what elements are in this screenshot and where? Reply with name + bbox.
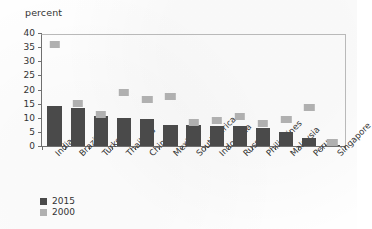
marker-2000 xyxy=(211,117,221,124)
bar-2015 xyxy=(117,118,131,146)
marker-2000 xyxy=(73,100,83,107)
y-tick-label: 10 xyxy=(24,113,35,123)
y-tick-label: 30 xyxy=(24,56,35,66)
legend-label-2000: 2000 xyxy=(52,207,75,218)
legend-item-2000: 2000 xyxy=(40,207,75,218)
chart-legend: 2015 2000 xyxy=(40,196,75,218)
bar-2015 xyxy=(140,119,154,146)
plot-area: 0510152025303540 xyxy=(41,34,346,147)
legend-label-2015: 2015 xyxy=(52,196,75,207)
bar-2015 xyxy=(302,138,316,146)
marker-2000 xyxy=(96,111,106,118)
y-tick-label: 5 xyxy=(29,127,35,137)
y-tick-label: 35 xyxy=(24,42,35,52)
legend-item-2015: 2015 xyxy=(40,196,75,207)
marker-2000 xyxy=(188,119,198,126)
marker-2000 xyxy=(49,41,59,48)
bar-group xyxy=(112,35,135,146)
bar-group xyxy=(43,35,66,146)
bar-2015 xyxy=(163,125,177,146)
bar-2015 xyxy=(210,126,224,146)
bar-2015 xyxy=(233,126,247,146)
bar-2015 xyxy=(71,108,85,146)
bar-2015 xyxy=(186,125,200,146)
bar-2015 xyxy=(256,128,270,146)
bar-group xyxy=(89,35,112,146)
bar-group xyxy=(182,35,205,146)
marker-2000 xyxy=(119,89,129,96)
marker-2000 xyxy=(281,116,291,123)
marker-2000 xyxy=(327,139,337,146)
bar-group xyxy=(321,35,344,146)
legend-swatch-2000-icon xyxy=(40,209,47,216)
bar-2015 xyxy=(279,132,293,146)
y-tick-label: 40 xyxy=(24,28,35,38)
y-tick-label: 15 xyxy=(24,99,35,109)
y-axis-tick xyxy=(38,33,42,34)
marker-2000 xyxy=(165,93,175,100)
marker-2000 xyxy=(304,104,314,111)
y-tick-label: 0 xyxy=(29,141,35,151)
y-axis-label: percent xyxy=(25,7,62,18)
bar-2015 xyxy=(94,116,108,146)
bar-group xyxy=(251,35,274,146)
bar-group xyxy=(159,35,182,146)
marker-2000 xyxy=(258,120,268,127)
x-axis-tick xyxy=(42,146,43,150)
y-tick-label: 25 xyxy=(24,70,35,80)
bar-group xyxy=(66,35,89,146)
y-tick-label: 20 xyxy=(24,85,35,95)
marker-2000 xyxy=(142,96,152,103)
marker-2000 xyxy=(235,113,245,120)
legend-swatch-2015-icon xyxy=(40,198,47,205)
bar-2015 xyxy=(47,106,61,146)
